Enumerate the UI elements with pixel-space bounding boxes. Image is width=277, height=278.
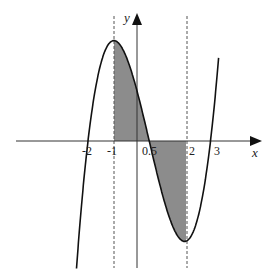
function-graph: x y -2 -1 0.5 2 3: [0, 0, 277, 278]
y-axis-label: y: [122, 10, 130, 25]
shaded-region-left: [113, 41, 150, 141]
tick-label-neg2: -2: [82, 144, 92, 158]
x-axis-label: x: [251, 145, 258, 160]
y-axis-arrow-icon: [132, 13, 142, 25]
tick-label-2: 2: [189, 144, 195, 158]
tick-label-0-5: 0.5: [142, 144, 157, 158]
tick-label-neg1: -1: [107, 144, 117, 158]
tick-label-3: 3: [214, 144, 220, 158]
